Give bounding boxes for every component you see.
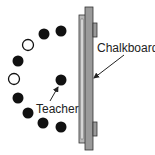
student-seat-occupied [23,108,34,119]
student-seat-occupied [13,93,24,104]
student-seat-empty [9,74,20,85]
student-seat-occupied [56,26,67,37]
teacher-marker [56,75,67,86]
student-seat-empty [23,40,34,51]
classroom-seating-diagram: Chalkboard Teacher [0,0,155,155]
teacher-label: Teacher [36,102,79,116]
teacher-arrow [50,87,58,101]
student-seat-occupied [39,29,50,40]
chalk-tray [81,19,83,139]
student-seat-occupied [13,56,24,67]
top-bracket [93,23,97,37]
chalkboard-label: Chalkboard [97,41,155,55]
student-seat-occupied [38,118,49,129]
chalkboard-panel [85,7,93,150]
chalkboard-arrow [94,55,124,78]
bottom-bracket [93,122,97,136]
student-seat-occupied [56,122,67,133]
